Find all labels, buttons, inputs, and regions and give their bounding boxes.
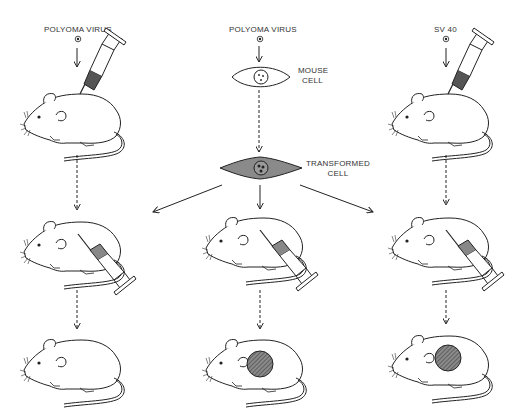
mouse-injected-cells-right (388, 217, 504, 291)
diagram-canvas (0, 0, 523, 411)
mouse-injected-virus-right (388, 28, 494, 161)
mouse-injected-cells-center (202, 217, 318, 291)
mouse-cell-icon (232, 67, 290, 87)
tumor-icon-right (435, 345, 461, 371)
tumor-icon-center (247, 351, 273, 377)
mouse-with-tumor-right (388, 335, 492, 403)
mouse-with-tumor-center (202, 339, 306, 407)
transformed-cell-icon (220, 157, 302, 179)
virus-icon-right (443, 36, 449, 42)
mouse-no-tumor-left (20, 339, 124, 407)
virus-icon-left (75, 36, 81, 42)
mouse-injected-cells-left (20, 221, 136, 295)
arrow-to-left-mouse (153, 185, 222, 212)
virus-icon-center (257, 36, 263, 42)
mouse-injected-virus-left (20, 28, 126, 161)
arrow-to-right-mouse (300, 185, 373, 212)
